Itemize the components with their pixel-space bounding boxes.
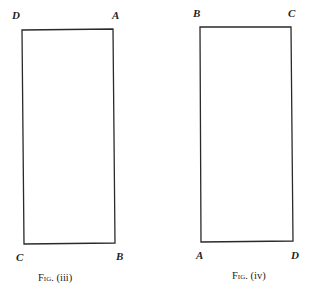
fig-iii-label-top-right: A <box>112 10 119 21</box>
fig-iv-caption-prefix: Fig. <box>232 270 248 281</box>
fig-iv-label-bottom-right: D <box>291 250 299 261</box>
figures-svg <box>0 0 312 295</box>
diagram-canvas: D A C B Fig. (iii) B C A D Fig. (iv) <box>0 0 312 295</box>
fig-iii-label-bottom-left: C <box>16 252 23 263</box>
fig-iv-caption-number: (iv) <box>250 270 265 281</box>
figure-iv-rectangle <box>200 27 293 242</box>
fig-iv-label-bottom-left: A <box>196 250 203 261</box>
fig-iii-caption: Fig. (iii) <box>38 272 72 283</box>
fig-iii-label-top-left: D <box>12 10 20 21</box>
figure-iii-rectangle <box>22 29 115 244</box>
fig-iv-caption: Fig. (iv) <box>232 270 266 281</box>
fig-iv-label-top-left: B <box>193 8 200 19</box>
fig-iii-caption-number: (iii) <box>56 272 72 283</box>
fig-iii-caption-prefix: Fig. <box>38 272 54 283</box>
fig-iii-label-bottom-right: B <box>116 251 123 262</box>
fig-iv-label-top-right: C <box>288 8 295 19</box>
